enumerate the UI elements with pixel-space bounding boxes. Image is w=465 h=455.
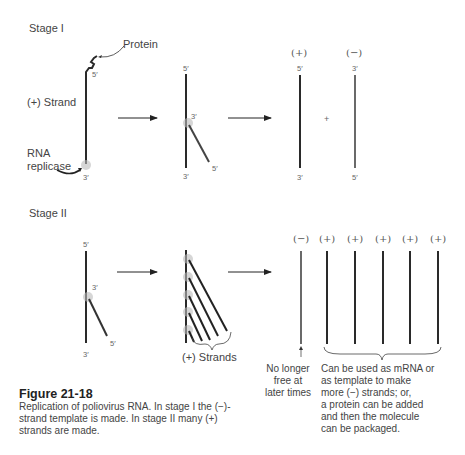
end-3-label: 3′	[83, 350, 89, 359]
plus-strand-label: (+) Strand	[27, 96, 76, 108]
product-sign: (+)	[402, 233, 418, 244]
product-sign: (+)	[375, 233, 391, 244]
end-5-label: 5′	[83, 240, 89, 249]
stage1-plus-strand	[57, 46, 124, 174]
stage2-products	[299, 251, 441, 360]
minus-sign: (−)	[346, 47, 362, 58]
stage2-template-strand	[83, 251, 107, 343]
product-sign: (−)	[293, 233, 309, 244]
combine-plus: +	[324, 114, 329, 124]
end-5-label: 5′	[110, 339, 116, 348]
end-5-label: 5′	[352, 173, 358, 182]
end-3-label: 3′	[183, 172, 189, 181]
plus-strands-label: (+) Strands	[182, 351, 237, 363]
product-sign: (+)	[319, 233, 335, 244]
minus-strand-note: No longer free at later times	[258, 363, 318, 399]
plus-strands-note: Can be used as mRNA or as template to ma…	[321, 363, 434, 435]
figure-title: Figure 21-18	[19, 387, 93, 401]
stage2-multiple-strands	[183, 250, 231, 350]
end-5-label: 5′	[183, 64, 189, 73]
end-5-label: 5′	[212, 164, 218, 173]
end-3-label: 3′	[83, 173, 89, 182]
stage1-replicating-strand	[183, 74, 209, 168]
replicase-label-2: replicase	[27, 160, 71, 172]
product-sign: (+)	[347, 233, 363, 244]
plus-sign: (+)	[291, 47, 307, 58]
product-sign: (+)	[430, 233, 446, 244]
end-5-label: 5′	[297, 64, 303, 73]
stage1-title: Stage I	[29, 22, 64, 34]
end-3-label: 3′	[92, 283, 98, 292]
end-3-label: 3′	[191, 112, 197, 121]
replicase-label: RNA	[27, 147, 50, 159]
end-5-label: 5′	[92, 70, 98, 79]
end-3-label: 3′	[297, 173, 303, 182]
stage2-title: Stage II	[29, 207, 67, 219]
figure-caption: Replication of poliovirus RNA. In stage …	[19, 401, 234, 437]
protein-label: Protein	[123, 38, 158, 50]
end-3-label: 3′	[352, 64, 358, 73]
